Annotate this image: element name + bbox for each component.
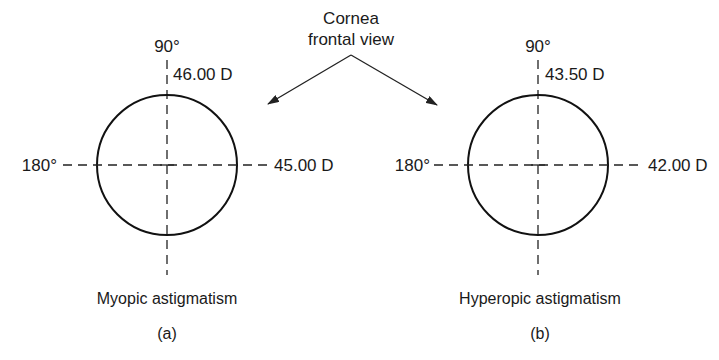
vertical-meridian-label: 90° <box>154 37 180 56</box>
panel-letter: (b) <box>530 325 550 342</box>
arrow-right-icon <box>351 55 437 105</box>
svg-text:frontal view: frontal view <box>308 30 395 49</box>
horizontal-meridian-label: 180° <box>22 156 57 175</box>
horizontal-power: 45.00 D <box>274 156 334 175</box>
panel-b: 90° 43.50 D 180° 42.00 D Hyperopic astig… <box>395 37 708 342</box>
arrow-left-icon <box>268 55 351 104</box>
panel-caption: Myopic astigmatism <box>97 290 237 307</box>
vertical-power: 46.00 D <box>173 65 233 84</box>
svg-text:Cornea: Cornea <box>323 9 379 28</box>
horizontal-meridian-label: 180° <box>395 156 430 175</box>
vertical-power: 43.50 D <box>545 65 605 84</box>
panel-letter: (a) <box>157 325 177 342</box>
cornea-astigmatism-diagram: Cornea frontal view 90° 46.00 D 180° 45.… <box>0 0 719 360</box>
vertical-meridian-label: 90° <box>525 37 551 56</box>
panel-caption: Hyperopic astigmatism <box>459 290 621 307</box>
horizontal-power: 42.00 D <box>648 156 708 175</box>
title-label: Cornea frontal view <box>308 9 395 49</box>
panel-a: 90° 46.00 D 180° 45.00 D Myopic astigmat… <box>22 37 334 342</box>
